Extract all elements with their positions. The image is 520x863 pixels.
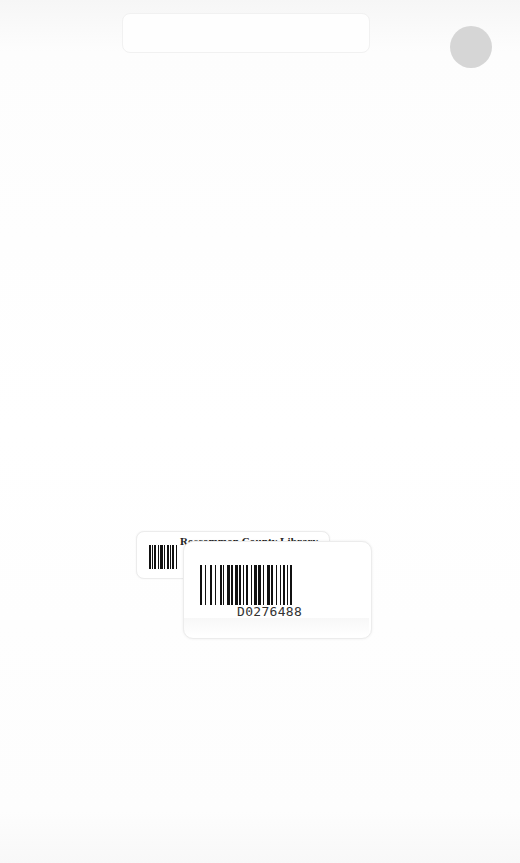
sticker-residue: [122, 13, 370, 53]
book-back-cover: Roscommon County Library: [0, 0, 520, 863]
barcode-icon: [200, 565, 292, 605]
barcode-number: D0276488: [237, 604, 302, 619]
small-barcode-icon: [149, 545, 177, 569]
grey-dot-sticker: [450, 26, 492, 68]
label-shadow: [184, 618, 369, 636]
